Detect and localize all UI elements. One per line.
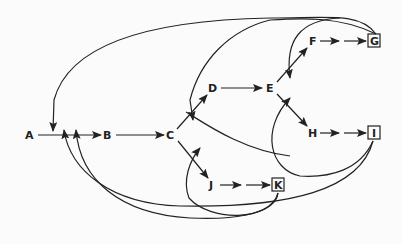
feedback-g-to-a <box>53 17 376 131</box>
node-a: A <box>25 129 34 142</box>
feedback-k-to-a <box>76 130 278 218</box>
node-k: K <box>274 179 283 192</box>
feedback-i-to-eh <box>272 98 373 176</box>
feedback-g-to-ef <box>289 18 340 78</box>
node-g: G <box>370 35 379 48</box>
edge-e-f <box>277 48 307 82</box>
node-f: F <box>309 35 317 48</box>
node-j: J <box>208 179 213 192</box>
node-h: H <box>308 127 317 140</box>
node-b: B <box>103 129 111 142</box>
node-e: E <box>266 82 274 95</box>
node-i: I <box>372 127 376 140</box>
edge-e-h <box>277 94 307 126</box>
node-d: D <box>208 82 217 95</box>
feedback-g-to-cd <box>190 19 376 120</box>
diagram-canvas: A B C D E F G H I J K <box>0 0 402 244</box>
flow-diagram: A B C D E F G H I J K <box>0 0 402 244</box>
node-c: C <box>166 129 174 142</box>
feedback-d-crossing <box>186 112 290 156</box>
